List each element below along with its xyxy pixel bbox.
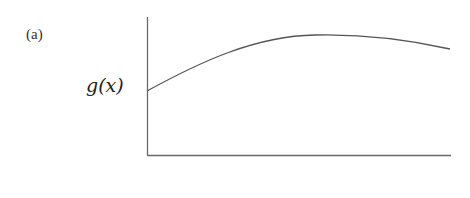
g-curve bbox=[147, 35, 450, 91]
plot-area bbox=[0, 0, 470, 198]
